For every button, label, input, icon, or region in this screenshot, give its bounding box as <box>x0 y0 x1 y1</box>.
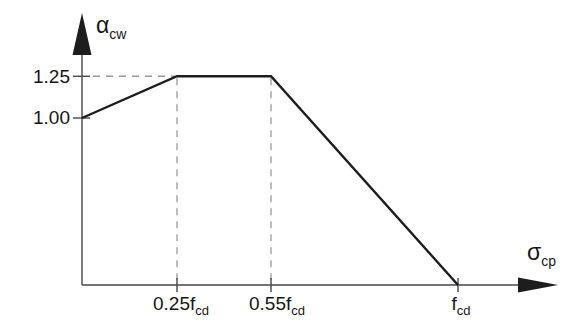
alpha-cw-curve <box>82 76 458 285</box>
chart-canvas <box>0 0 587 336</box>
x-tick-label-fcd: fcd <box>451 293 470 317</box>
y-axis-label-subscript: cw <box>109 26 126 42</box>
x-tick-unit-subscript: cd <box>291 303 305 318</box>
x-tick-value: 0.55 <box>249 293 286 314</box>
x-tick-label-025fcd: 0.25fcd <box>153 293 209 317</box>
sigma-symbol: σ <box>527 239 541 265</box>
y-axis-label: αcw <box>96 13 126 41</box>
x-tick-label-055fcd: 0.55fcd <box>249 293 305 317</box>
y-tick-label-1-00: 1.00 <box>18 107 70 129</box>
x-tick-unit-subscript: cd <box>195 303 209 318</box>
x-axis-label: σcp <box>527 240 556 268</box>
x-tick-unit-subscript: cd <box>457 303 471 318</box>
x-axis-arrowhead-icon <box>518 278 558 293</box>
y-axis-arrowhead-icon <box>73 13 92 55</box>
alpha-symbol: α <box>96 12 109 38</box>
alpha-cw-diagram: 1.25 1.00 0.25fcd 0.55fcd fcd αcw σcp <box>0 0 587 336</box>
x-tick-value: 0.25 <box>153 293 190 314</box>
y-tick-label-1-25: 1.25 <box>18 66 70 88</box>
x-axis-label-subscript: cp <box>541 253 556 269</box>
